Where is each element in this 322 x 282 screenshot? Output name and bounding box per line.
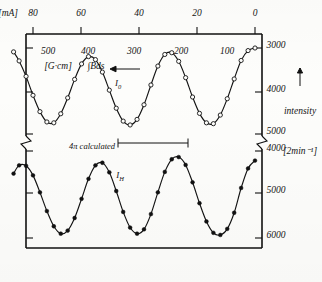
data-point-I-H <box>156 190 160 194</box>
intensity-tick-labels: 6000 5000 4000 5000 4000 3000 <box>266 40 286 240</box>
data-point-I-0 <box>73 77 77 81</box>
data-point-I-H <box>135 232 139 236</box>
data-point-I-0 <box>163 52 167 56</box>
ma-tick-0: 0 <box>253 8 258 18</box>
label-I-0-sub: 0 <box>118 83 122 90</box>
data-point-I-0 <box>239 58 243 62</box>
data-point-I-0 <box>142 103 146 107</box>
data-point-I-H <box>94 163 98 167</box>
series-I-H <box>12 155 257 237</box>
series-I-0 <box>11 46 257 127</box>
data-point-I-0 <box>190 95 194 99</box>
intensity-axis-units: [2min⁻¹] <box>283 146 318 156</box>
ma-tick-80: 80 <box>28 8 38 18</box>
data-point-I-H <box>66 229 70 233</box>
data-point-I-H <box>239 186 243 190</box>
svg-text:IH: IH <box>115 170 124 182</box>
data-point-I-0 <box>38 110 42 114</box>
data-point-I-0 <box>177 59 181 63</box>
data-point-I-H <box>205 220 209 224</box>
curve-label-I-0: I0 <box>114 78 122 90</box>
data-point-I-H <box>100 161 104 165</box>
data-point-I-0 <box>204 121 208 125</box>
intensity-tick-5000-lower: 5000 <box>267 126 286 136</box>
data-point-I-0 <box>170 51 174 55</box>
bds-axis-units: [G·cm] <box>44 61 72 71</box>
data-point-I-H <box>253 159 257 163</box>
intensity-axis-arrow-icon <box>297 68 302 86</box>
data-point-I-H <box>142 227 146 231</box>
data-point-I-H <box>12 172 16 176</box>
bds-axis-arrow-icon <box>110 66 140 72</box>
data-point-I-0 <box>128 123 132 127</box>
data-point-I-H <box>17 163 21 167</box>
data-point-I-H <box>87 177 91 181</box>
rotated-plot-wrapper: 6000 5000 4000 5000 4000 3000 [2min⁻¹] i… <box>0 0 322 282</box>
data-point-I-H <box>107 170 111 174</box>
intensity-tick-4000-lower: 4000 <box>267 84 286 94</box>
data-point-I-0 <box>246 48 250 52</box>
bds-tick-100: 100 <box>220 46 235 56</box>
data-point-I-0 <box>149 83 153 87</box>
ma-tick-60: 60 <box>76 8 86 18</box>
data-point-I-0 <box>114 106 118 110</box>
data-point-I-H <box>177 155 181 159</box>
plot-canvas: 6000 5000 4000 5000 4000 3000 [2min⁻¹] i… <box>0 0 322 282</box>
data-point-I-0 <box>184 76 188 80</box>
data-point-I-0 <box>253 46 257 50</box>
data-point-I-0 <box>11 50 15 54</box>
data-point-I-0 <box>24 74 28 78</box>
data-point-I-H <box>24 164 28 168</box>
data-point-I-H <box>211 231 215 235</box>
data-point-I-0 <box>197 111 201 115</box>
data-point-I-0 <box>135 117 139 121</box>
field-axis-bds-labels: 100 200 300 400 500 ∫Bds [G·cm] <box>41 46 235 72</box>
data-point-I-H <box>184 163 188 167</box>
data-point-I-0 <box>17 59 21 63</box>
data-point-I-0 <box>52 121 56 125</box>
data-point-I-H <box>170 157 174 161</box>
data-point-I-H <box>232 211 236 215</box>
bds-tick-500: 500 <box>41 46 56 56</box>
data-point-I-0 <box>232 77 236 81</box>
data-point-I-H <box>218 233 222 237</box>
data-point-I-H <box>198 201 202 205</box>
data-point-I-H <box>121 210 125 214</box>
data-point-I-0 <box>79 62 83 66</box>
data-point-I-0 <box>211 122 215 126</box>
data-point-I-0 <box>45 120 49 124</box>
intensity-axis-name: intensity <box>284 106 317 116</box>
intensity-tick-6000: 6000 <box>267 230 286 240</box>
data-point-I-0 <box>156 64 160 68</box>
data-point-I-H <box>31 173 35 177</box>
data-point-I-H <box>191 180 195 184</box>
error-bar-label: 4π calculated <box>69 141 116 151</box>
bds-tick-200: 200 <box>174 46 189 56</box>
label-I-H-sub: H <box>118 175 124 182</box>
data-point-I-0 <box>31 93 35 97</box>
data-point-I-H <box>45 209 49 213</box>
data-point-I-0 <box>100 70 104 74</box>
data-point-I-0 <box>66 96 70 100</box>
data-point-I-H <box>59 232 63 236</box>
data-point-I-0 <box>225 97 229 101</box>
data-point-I-0 <box>93 58 97 62</box>
data-point-I-H <box>52 224 56 228</box>
data-point-I-0 <box>107 88 111 92</box>
data-point-I-H <box>163 170 167 174</box>
markers-I-H <box>12 155 257 237</box>
intensity-axis-title: [2min⁻¹] intensity <box>283 68 318 156</box>
data-point-I-0 <box>218 113 222 117</box>
data-point-I-H <box>73 216 77 220</box>
data-point-I-0 <box>86 55 90 59</box>
figure-root: 6000 5000 4000 5000 4000 3000 [2min⁻¹] i… <box>0 0 322 282</box>
svg-text:I0: I0 <box>114 78 122 90</box>
curve-label-I-H: IH <box>115 170 124 182</box>
intensity-tick-5000-upper: 5000 <box>267 185 286 195</box>
data-point-I-H <box>149 212 153 216</box>
data-point-I-H <box>225 227 229 231</box>
data-point-I-0 <box>121 119 125 123</box>
data-point-I-H <box>80 197 84 201</box>
data-point-I-0 <box>59 112 63 116</box>
intensity-tick-3000-lower: 3000 <box>266 40 286 50</box>
